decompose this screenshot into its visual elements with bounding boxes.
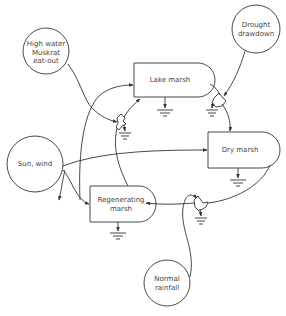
switch-dry — [206, 93, 226, 116]
flow-sun-to-regen — [63, 170, 89, 204]
label-high-water: High water Muskrat eat-out — [24, 40, 68, 66]
heat-sink-dry — [230, 168, 246, 186]
switch-lake — [116, 114, 131, 139]
flow-highwater-to-switch — [68, 64, 117, 122]
flow-switch-to-lake — [124, 99, 140, 117]
heat-sink-regen — [110, 222, 126, 239]
flow-drought-to-switch — [224, 51, 245, 96]
label-sun-wind: Sun, wind — [10, 160, 60, 169]
flow-regen-to-switch — [115, 128, 128, 186]
label-lake-marsh: Lake marsh — [134, 76, 206, 85]
label-normal-rainfall: Normal rainfall — [145, 275, 189, 292]
switch-regen — [194, 196, 208, 224]
flow-switch-to-regen — [146, 203, 195, 204]
label-drought: Drought drawdown — [232, 21, 280, 38]
heat-sink-lake — [157, 97, 173, 116]
label-dry-marsh: Dry marsh — [208, 146, 272, 155]
label-regenerating-marsh: Regenerating marsh — [90, 196, 152, 213]
flow-sun-down — [59, 170, 65, 200]
flow-sun-to-dry — [63, 150, 207, 166]
flow-dry-to-switchregen — [208, 165, 270, 203]
flow-switch-to-dry — [222, 104, 230, 131]
